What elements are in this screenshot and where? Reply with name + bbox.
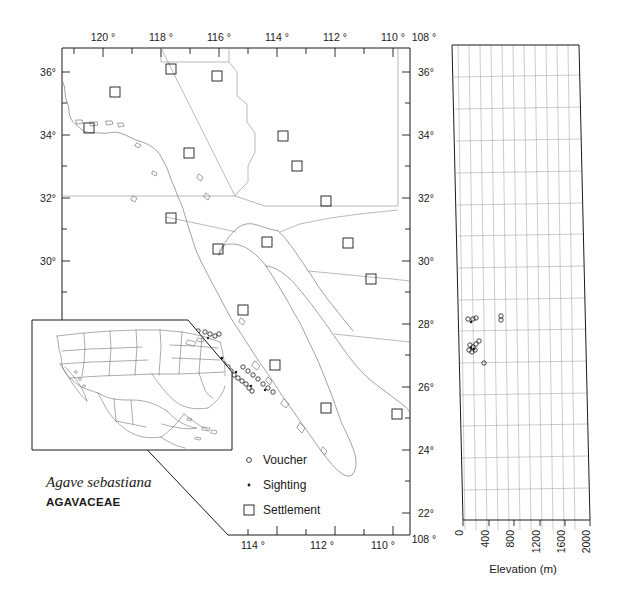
map-lat-label-right-4: 28°: [418, 318, 434, 330]
map-lat-label-left-1: 34°: [40, 129, 56, 141]
sighting-icon: [248, 484, 251, 487]
map-lon-label-top-0: 120 °: [91, 31, 116, 43]
map-lat-label-left-2: 32°: [40, 192, 56, 204]
map-lat-label-left-3: 30°: [40, 255, 56, 267]
map-lat-label-right-5: 26°: [418, 381, 434, 393]
elevation-tick-4: 1600: [555, 530, 567, 554]
elevation-tick-0: 0: [453, 530, 465, 536]
map-lat-label-right-1: 34°: [418, 129, 434, 141]
elevation-tick-2: 800: [504, 530, 516, 548]
inset-frame: [32, 320, 232, 450]
species-name: Agave sebastiana: [45, 474, 151, 490]
map-lat-label-right-7: 22°: [418, 507, 434, 519]
map-lon-label-bottom-1: 112 °: [310, 539, 334, 551]
map-lon-label-bottom-0: 114 °: [241, 539, 265, 551]
elevation-panel: 0 400 800 1200 1600 2000 Elevati: [452, 45, 592, 575]
map-lat-label-right-0: 36°: [418, 66, 434, 78]
map-lon-label-top-6: 108 °: [412, 31, 437, 43]
legend-label-settlement: Settlement: [263, 503, 321, 517]
map-lon-label-bottom-2: 110 °: [371, 539, 395, 551]
elevation-tick-5: 2000: [580, 530, 592, 554]
elevation-tick-3: 1200: [530, 530, 542, 554]
map-lat-label-right-2: 32°: [418, 192, 434, 204]
map-lon-label-top-5: 110 °: [381, 31, 405, 43]
map-lat-label-right-6: 24°: [418, 444, 434, 456]
legend-label-sighting: Sighting: [263, 478, 306, 492]
map-lon-label-top-1: 118 °: [149, 31, 173, 43]
distribution-map-figure: 120 ° 118 ° 116 ° 114 ° 112 ° 110 ° 108 …: [0, 0, 633, 605]
map-panel-background: [62, 48, 410, 535]
elevation-axis-title: Elevation (m): [489, 563, 557, 575]
map-lon-label-top-2: 116 °: [207, 31, 231, 43]
inset-reference-map: [32, 320, 232, 450]
map-lat-label-left-0: 36°: [40, 66, 56, 78]
map-panel: 120 ° 118 ° 116 ° 114 ° 112 ° 110 ° 108 …: [40, 31, 436, 551]
legend-label-voucher: Voucher: [263, 453, 307, 467]
map-lon-label-top-3: 114 °: [265, 31, 289, 43]
map-lat-label-right-3: 30°: [418, 255, 434, 267]
map-lon-label-top-4: 112 °: [323, 31, 347, 43]
family-name: AGAVACEAE: [46, 496, 121, 508]
elevation-tick-1: 400: [479, 530, 491, 548]
map-lon-label-bottom-3: 108 °: [412, 533, 437, 545]
